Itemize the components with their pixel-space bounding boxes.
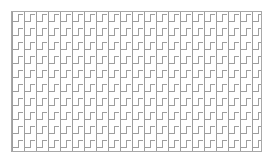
figure-root xyxy=(0,0,274,166)
pattern-field xyxy=(11,11,262,152)
zigzag-pattern-figure xyxy=(0,0,274,166)
